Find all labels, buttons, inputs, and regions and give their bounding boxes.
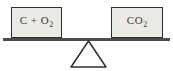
left-formula-subscript: 2 [49, 21, 53, 30]
right-formula-subscript: 2 [143, 21, 147, 30]
left-formula-text: C + O [20, 14, 49, 26]
right-pan-box: CO2 [111, 7, 163, 38]
left-pan-box: C + O2 [11, 7, 62, 38]
right-formula-text: CO [127, 14, 143, 26]
balance-diagram: C + O2 CO2 [0, 0, 173, 71]
left-pan-label: C + O2 [20, 15, 53, 29]
right-pan-label: CO2 [127, 15, 147, 29]
fulcrum-triangle-icon [69, 40, 108, 68]
